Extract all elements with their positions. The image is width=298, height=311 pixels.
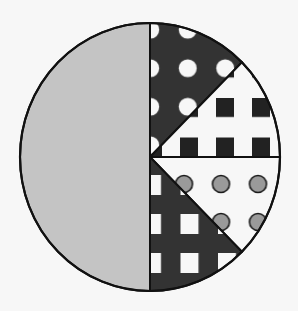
pie-chart [0,0,298,311]
pie-slice-5 [20,23,150,291]
pie-chart-canvas [0,0,298,311]
pie-slices [20,23,280,291]
